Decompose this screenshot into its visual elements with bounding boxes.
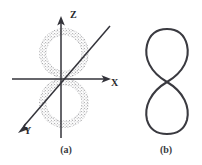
x-axis-label: X <box>111 78 118 88</box>
lemniscate-lower-lobe <box>146 82 187 134</box>
lemniscate-upper-lobe <box>146 29 187 82</box>
panel-caption-a: (a) <box>54 145 78 155</box>
y-axis-label: Y <box>24 126 31 136</box>
figure-container: Z X Y (a) (b) <box>0 0 202 165</box>
figure-canvas <box>0 0 202 165</box>
panel-caption-b: (b) <box>154 145 178 155</box>
lemniscate-shape <box>146 29 187 134</box>
z-axis-label: Z <box>70 10 77 20</box>
